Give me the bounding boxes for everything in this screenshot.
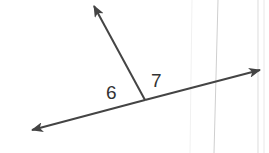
- ray-arrow: [94, 6, 145, 100]
- line-left-arrow: [32, 100, 145, 130]
- diagram: 6 7: [0, 0, 269, 153]
- angle-7-label: 7: [151, 70, 162, 91]
- page-edge-line: [214, 0, 218, 153]
- angle-6-label: 6: [106, 82, 117, 103]
- line-right-arrow: [145, 70, 260, 100]
- page-edge-line: [190, 0, 192, 153]
- diagram-canvas: 6 7: [0, 0, 269, 153]
